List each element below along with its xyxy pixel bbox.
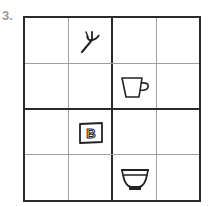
grid-cell-r1c0[interactable] [25,64,70,111]
grid-cell-r3c3[interactable] [157,156,202,203]
grid-cell-r3c2[interactable] [113,156,158,203]
fork-icon [78,28,104,54]
svg-text:B: B [87,126,96,141]
grid-cell-r2c2[interactable] [113,110,158,157]
grid-cell-r2c1[interactable]: B [69,110,114,157]
grid-cell-r0c1[interactable] [69,18,114,65]
grid-cell-r0c3[interactable] [157,18,202,65]
grid-cell-r1c1[interactable] [69,64,114,111]
cup-icon [119,74,151,100]
bowl-icon [118,166,152,192]
grid-cell-r3c1[interactable] [69,156,114,203]
grid-cell-r3c0[interactable] [25,156,70,203]
grid-cell-r0c0[interactable] [25,18,70,65]
b-box-icon: B [77,121,105,145]
grid-cell-r1c2[interactable] [113,64,158,111]
grid-cell-r2c0[interactable] [25,110,70,157]
puzzle-number: 3. [2,8,13,23]
puzzle-grid: B [23,16,201,202]
grid-cell-r1c3[interactable] [157,64,202,111]
grid-cell-r2c3[interactable] [157,110,202,157]
grid-cell-r0c2[interactable] [113,18,158,65]
